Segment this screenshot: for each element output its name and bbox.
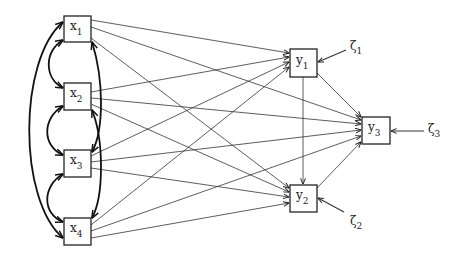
path-x2-y1 [91, 57, 289, 92]
node-x3: x3 [64, 150, 91, 177]
disturbance-label-zeta1: ζ1 [350, 39, 362, 56]
cov-x1-x4 [29, 22, 63, 238]
path-x4-y1 [91, 67, 289, 225]
node-x4: x4 [64, 218, 91, 245]
node-y3: y3 [362, 117, 390, 144]
path-diagram: ζ1 ζ2 ζ3 x1 x2 x3 x4 y1 y2 y3 [0, 0, 456, 259]
path-x1-y1 [91, 20, 289, 53]
path-x1-y2 [91, 38, 289, 188]
disturbance-label-zeta2: ζ2 [350, 214, 362, 231]
path-x1-y3 [91, 27, 361, 120]
path-x3-y2 [91, 168, 289, 197]
disturbance-label-zeta3: ζ3 [428, 122, 441, 139]
node-x1: x1 [64, 16, 91, 42]
cov-x3-x4 [47, 174, 63, 222]
cov-x1-x2 [49, 40, 63, 88]
path-x2-y3 [91, 98, 361, 124]
disturbance-arrow-zeta2 [318, 198, 344, 212]
node-y2: y2 [290, 185, 317, 212]
node-y1: y1 [290, 49, 317, 77]
disturbance-arrow-zeta1 [318, 50, 346, 62]
structural-paths [91, 20, 361, 238]
path-x4-y3 [91, 136, 361, 231]
path-x3-y3 [91, 130, 361, 162]
node-x2: x2 [64, 83, 91, 110]
path-x2-y2 [91, 104, 289, 192]
path-y1-y3 [317, 73, 361, 117]
cov-x2-x3 [47, 106, 63, 155]
covariance-arcs [29, 22, 101, 238]
